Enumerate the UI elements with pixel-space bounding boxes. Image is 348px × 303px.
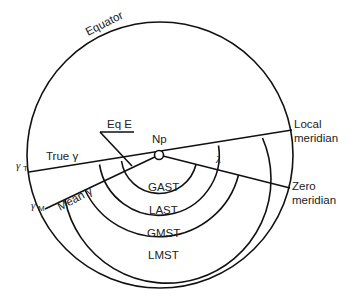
zero-meridian-label-1: Zero <box>292 180 316 192</box>
np-label: Np <box>152 133 167 145</box>
north-pole-marker <box>155 151 164 160</box>
gamma-t-subscript: T <box>23 164 28 173</box>
gamma-t-symbol: γ <box>16 159 21 171</box>
last-label: LAST <box>149 204 178 216</box>
sidereal-time-diagram: Equator Eq E Np λ GAST LAST GMST LMST Tr… <box>0 0 348 303</box>
gast-label: GAST <box>148 181 179 193</box>
eq-e-pointer <box>100 132 132 166</box>
gamma-m-symbol: γ <box>31 199 36 211</box>
gamma-m-subscript: M <box>38 204 45 213</box>
local-meridian-label-1: Local <box>294 118 322 130</box>
true-gamma-label: True γ <box>46 150 78 162</box>
gmst-label: GMST <box>147 227 180 239</box>
lmst-label: LMST <box>148 249 179 261</box>
local-meridian-label-2: meridian <box>294 132 338 144</box>
zero-meridian-label-2: meridian <box>292 194 336 206</box>
mean-gamma-label: Mean γ <box>55 184 94 212</box>
eq-e-label: Eq E <box>107 118 132 130</box>
